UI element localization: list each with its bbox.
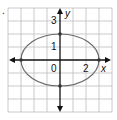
graph-svg (0, 0, 117, 120)
y-tick-label-3: 3 (51, 16, 57, 26)
axes (12, 11, 109, 110)
x-tick-label-2: 2 (83, 64, 89, 74)
x-axis-label: x (101, 64, 106, 74)
ellipse-graph: . 3 y 1 0 2 x (0, 0, 117, 120)
problem-marker: . (2, 6, 5, 16)
y-axis-label: y (65, 9, 70, 19)
x-axis-left-arrow-icon (9, 57, 15, 63)
y-axis-up-arrow-icon (57, 8, 63, 14)
y-axis-down-arrow-icon (57, 106, 63, 112)
y-tick-label-1: 1 (51, 42, 57, 52)
origin-label: 0 (51, 64, 57, 74)
